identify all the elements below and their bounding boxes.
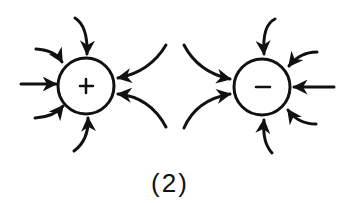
positive-field-arrows bbox=[21, 18, 166, 151]
figure-caption: (2) bbox=[0, 168, 340, 199]
